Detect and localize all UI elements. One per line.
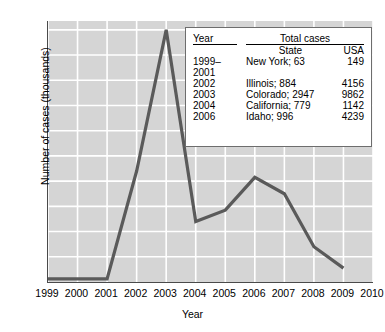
cell-state: Illinois; 884 [246, 78, 335, 89]
cell-usa: 4239 [335, 111, 364, 122]
x-tick-label: 2010 [352, 288, 385, 299]
cell-state: Idaho; 996 [246, 111, 335, 122]
subheader-gap [237, 45, 246, 57]
cell-gap [237, 89, 246, 100]
table-body: 1999– 2001New York; 631492002Illinois; 8… [193, 56, 364, 122]
cell-state: California; 779 [246, 100, 335, 111]
cell-year: 2002 [193, 78, 237, 89]
line-chart-figure: 10987654321 Number of cases (thousands) … [0, 0, 385, 332]
table-head: Year Total cases State USA [193, 33, 364, 56]
x-axis-title: Year [0, 308, 385, 320]
table-row: 2003Colorado; 29479862 [193, 89, 364, 100]
table-header-row: Year Total cases [193, 33, 364, 45]
total-cases-table: Year Total cases State USA 1999– 2001New… [193, 33, 364, 122]
header-spacer [237, 33, 246, 45]
cell-usa: 1142 [335, 100, 364, 111]
cell-state: Colorado; 2947 [246, 89, 335, 100]
table-subheader-row: State USA [193, 45, 364, 57]
cell-gap [237, 56, 246, 78]
cell-gap [237, 78, 246, 89]
table-row: 1999– 2001New York; 63149 [193, 56, 364, 78]
table-row: 2002Illinois; 8844156 [193, 78, 364, 89]
subheader-year-spacer [193, 45, 237, 57]
cell-year: 2003 [193, 89, 237, 100]
cell-year: 2004 [193, 100, 237, 111]
column-subheader-state: State [246, 45, 335, 57]
cell-usa: 4156 [335, 78, 364, 89]
column-subheader-usa: USA [335, 45, 364, 57]
cell-usa: 149 [335, 56, 364, 78]
cell-year: 2006 [193, 111, 237, 122]
cell-state: New York; 63 [246, 56, 335, 78]
inset-summary-table: Year Total cases State USA 1999– 2001New… [185, 27, 372, 147]
column-header-year: Year [193, 33, 237, 45]
cell-gap [237, 111, 246, 122]
column-header-total-cases: Total cases [246, 33, 364, 45]
cell-gap [237, 100, 246, 111]
cell-usa: 9862 [335, 89, 364, 100]
table-row: 2006Idaho; 9964239 [193, 111, 364, 122]
y-axis-title: Number of cases (thousands) [39, 16, 51, 216]
table-row: 2004California; 7791142 [193, 100, 364, 111]
cell-year: 1999– 2001 [193, 56, 237, 78]
